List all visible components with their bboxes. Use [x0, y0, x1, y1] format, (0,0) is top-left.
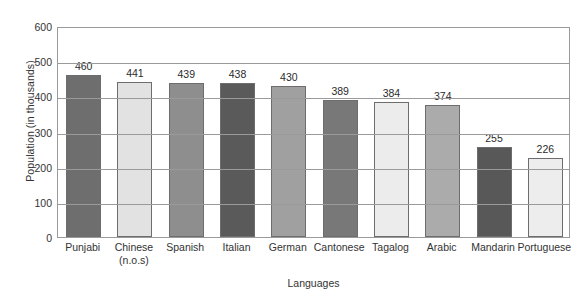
x-tick-label-line: German	[269, 241, 307, 253]
bar-slot: 441	[117, 28, 152, 237]
gridline	[58, 169, 569, 170]
bar-slot: 430	[271, 28, 306, 237]
bar[interactable]	[271, 86, 306, 237]
x-tick-label-line: Tagalog	[372, 241, 409, 253]
x-tick-label: Portuguese	[511, 241, 578, 254]
bar[interactable]	[169, 83, 204, 237]
bar-value-label: 438	[210, 68, 265, 80]
bars-layer: 460441439438430389384374255226	[58, 28, 569, 237]
bar-value-label: 460	[56, 60, 111, 72]
x-tick-label-line: Portuguese	[517, 241, 571, 253]
bar-value-label: 439	[159, 68, 214, 80]
bar-value-label: 389	[313, 85, 368, 97]
bar[interactable]	[425, 105, 460, 237]
y-tick-label: 0	[22, 232, 52, 244]
x-tick-label-line: (n.o.s)	[100, 254, 167, 267]
plot-area: 460441439438430389384374255226	[57, 27, 570, 238]
x-tick-label-line: Italian	[223, 241, 251, 253]
x-axis-title: Languages	[57, 277, 570, 289]
y-tick-label: 600	[22, 21, 52, 33]
bar-slot: 255	[477, 28, 512, 237]
bar-value-label: 226	[518, 143, 573, 155]
y-axis-tick-labels: 0100200300400500600	[22, 27, 52, 238]
gridline	[58, 134, 569, 135]
y-tick-label: 200	[22, 162, 52, 174]
bar-slot: 226	[528, 28, 563, 237]
bar-value-label: 441	[107, 67, 162, 79]
y-tick-label: 400	[22, 91, 52, 103]
bar-slot: 438	[220, 28, 255, 237]
y-tick-label: 100	[22, 197, 52, 209]
x-tick-label-line: Mandarin	[471, 241, 515, 253]
bar-chart: Population (in thousands) 01002003004005…	[0, 0, 586, 299]
gridline	[58, 98, 569, 99]
bar-slot: 384	[374, 28, 409, 237]
bar-slot: 460	[66, 28, 101, 237]
x-tick-label-line: Punjabi	[65, 241, 100, 253]
bar-slot: 439	[169, 28, 204, 237]
x-axis-tick-labels: PunjabiChinese(n.o.s)SpanishItalianGerma…	[57, 241, 570, 281]
y-tick-label: 300	[22, 127, 52, 139]
bar-slot: 374	[425, 28, 460, 237]
bar[interactable]	[477, 147, 512, 237]
bar[interactable]	[117, 82, 152, 237]
x-tick-label-line: Spanish	[166, 241, 204, 253]
bar[interactable]	[66, 75, 101, 237]
y-tick-label: 500	[22, 56, 52, 68]
bar-value-label: 384	[364, 87, 419, 99]
x-tick-label-line: Chinese	[115, 241, 154, 253]
x-tick-label-line: Arabic	[427, 241, 457, 253]
gridline	[58, 63, 569, 64]
bar[interactable]	[220, 83, 255, 237]
bar-slot: 389	[323, 28, 358, 237]
gridline	[58, 204, 569, 205]
bar-value-label: 374	[415, 90, 470, 102]
bar-value-label: 430	[261, 71, 316, 83]
